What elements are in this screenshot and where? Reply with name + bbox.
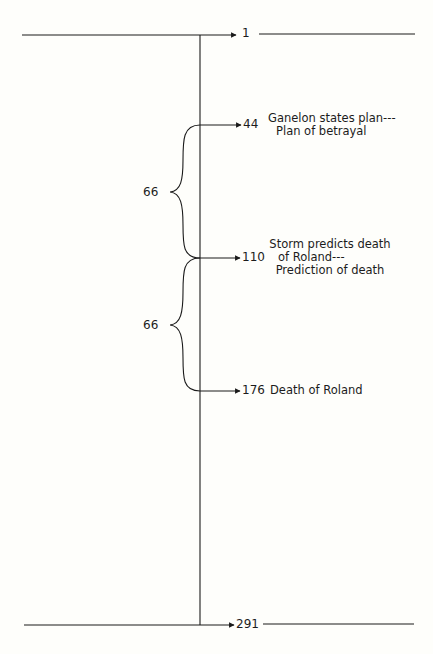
interval-label-1: 66 [143,186,158,199]
event-label-44: Ganelon states plan--- Plan of betrayal [268,112,396,138]
end-value: 291 [236,618,259,631]
marker-value-44: 44 [243,118,258,131]
event-110-line-3: Prediction of death [266,264,394,277]
marker-value-110: 110 [242,251,265,264]
marker-value-176: 176 [242,384,265,397]
brace-interval-1 [170,125,200,258]
event-label-176: Death of Roland [270,384,363,397]
event-label-110: Storm predicts death of Roland--- Predic… [266,238,394,277]
start-value: 1 [242,27,250,40]
interval-label-2: 66 [143,319,158,332]
timeline-diagram [0,0,433,654]
brace-interval-2 [170,258,200,391]
event-44-line-2: Plan of betrayal [268,125,396,138]
